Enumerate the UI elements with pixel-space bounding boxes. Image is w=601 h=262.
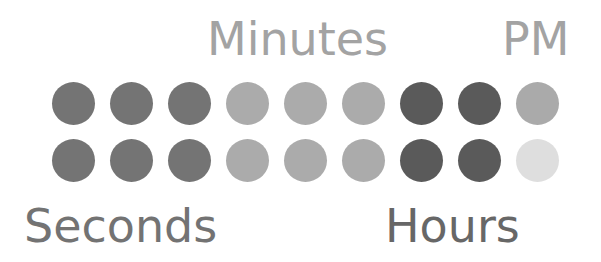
seconds-dot xyxy=(52,82,95,125)
minutes-dot xyxy=(284,82,327,125)
minutes-dot xyxy=(342,139,385,182)
hours-label: Hours xyxy=(385,203,520,249)
hours-dot xyxy=(458,82,501,125)
seconds-dot xyxy=(52,139,95,182)
seconds-dot xyxy=(168,82,211,125)
pm-indicator-dot xyxy=(516,82,559,125)
dot-grid xyxy=(52,82,559,182)
seconds-dot xyxy=(110,82,153,125)
minutes-dot xyxy=(226,139,269,182)
seconds-label: Seconds xyxy=(24,203,217,249)
hours-dot xyxy=(400,139,443,182)
pm-label: PM xyxy=(502,16,569,62)
minutes-dot xyxy=(226,82,269,125)
hours-dot xyxy=(400,82,443,125)
minutes-dot xyxy=(342,82,385,125)
seconds-dot xyxy=(168,139,211,182)
hours-dot xyxy=(458,139,501,182)
seconds-dot xyxy=(110,139,153,182)
minutes-label: Minutes xyxy=(207,16,388,62)
minutes-dot xyxy=(284,139,327,182)
am-indicator-dot xyxy=(516,139,559,182)
